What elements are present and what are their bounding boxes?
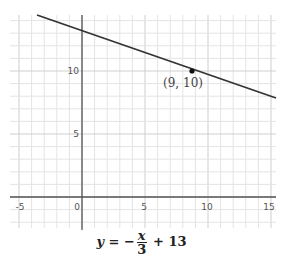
x-tick-label: -5 [16, 202, 25, 212]
y-tick-label: 5 [73, 129, 79, 139]
equation-fraction: x3 [137, 229, 147, 256]
x-tick-label: 15 [263, 202, 274, 212]
grid-lines [10, 15, 276, 228]
point-label: (9, 10) [163, 76, 203, 90]
x-tick-label: 0 [74, 202, 80, 212]
y-tick-label: 10 [68, 66, 80, 76]
point-marker [189, 68, 194, 73]
equation-equals: = − [104, 234, 135, 249]
x-tick-label: 5 [141, 202, 147, 212]
fraction-numerator: x [137, 229, 147, 243]
graph-plot: -5 0 5 10 15 5 10 (9, 10) [0, 0, 283, 230]
x-tick-label: 10 [201, 202, 213, 212]
fraction-denominator: 3 [137, 243, 147, 256]
line-series [37, 15, 276, 98]
equation-rest: + 13 [149, 234, 187, 249]
equation: y = −x3 + 13 [0, 229, 283, 256]
equation-lhs: y [96, 234, 104, 249]
